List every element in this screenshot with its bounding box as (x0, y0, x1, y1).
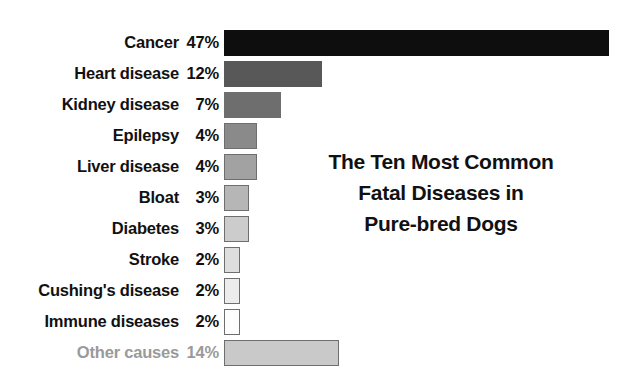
chart-row: Other causes14% (0, 337, 640, 368)
bar-track (224, 275, 640, 306)
chart-row: Kidney disease7% (0, 89, 640, 120)
category-label: Bloat (0, 189, 179, 206)
bar-track (224, 27, 640, 58)
value-label: 3% (179, 189, 224, 206)
category-label: Kidney disease (0, 96, 179, 113)
value-label: 2% (179, 282, 224, 299)
bar (224, 340, 339, 366)
bar (224, 185, 249, 211)
bar (224, 123, 257, 149)
value-label: 3% (179, 220, 224, 237)
chart-title: The Ten Most CommonFatal Diseases inPure… (296, 147, 586, 240)
chart-row: Cushing's disease2% (0, 275, 640, 306)
value-label: 47% (179, 34, 224, 51)
bar (224, 247, 240, 273)
title-line: Fatal Diseases in (296, 178, 586, 209)
category-label: Stroke (0, 251, 179, 268)
value-label: 7% (179, 96, 224, 113)
value-label: 2% (179, 313, 224, 330)
bar (224, 216, 249, 242)
bar (224, 278, 240, 304)
bar (224, 30, 609, 56)
bar (224, 154, 257, 180)
bar-track (224, 58, 640, 89)
category-label: Cushing's disease (0, 282, 179, 299)
title-line: Pure-bred Dogs (296, 209, 586, 240)
bar-track (224, 244, 640, 275)
bar-track (224, 89, 640, 120)
category-label: Epilepsy (0, 127, 179, 144)
chart-row: Cancer47% (0, 27, 640, 58)
bar-track (224, 306, 640, 337)
value-label: 2% (179, 251, 224, 268)
category-label: Heart disease (0, 65, 179, 82)
value-label: 14% (179, 344, 224, 361)
chart-row: Heart disease12% (0, 58, 640, 89)
category-label: Diabetes (0, 220, 179, 237)
bar (224, 92, 281, 118)
bar-track (224, 337, 640, 368)
chart-row: Immune diseases2% (0, 306, 640, 337)
category-label: Cancer (0, 34, 179, 51)
category-label: Liver disease (0, 158, 179, 175)
category-label: Immune diseases (0, 313, 179, 330)
value-label: 4% (179, 158, 224, 175)
category-label: Other causes (0, 344, 179, 361)
bar-chart: Cancer47%Heart disease12%Kidney disease7… (0, 0, 640, 383)
bar (224, 61, 322, 87)
value-label: 12% (179, 65, 224, 82)
bar (224, 309, 240, 335)
value-label: 4% (179, 127, 224, 144)
title-line: The Ten Most Common (296, 147, 586, 178)
chart-row: Stroke2% (0, 244, 640, 275)
